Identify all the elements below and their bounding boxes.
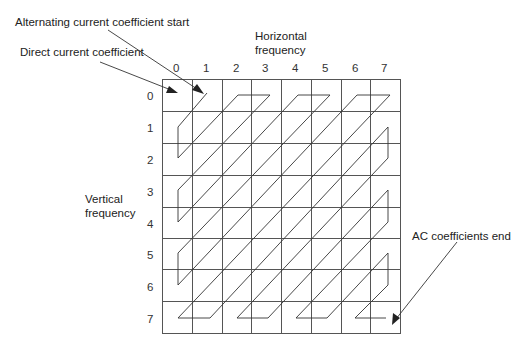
dc-label: Direct current coefficient: [20, 46, 145, 58]
row-label: 7: [147, 313, 153, 325]
row-label: 0: [147, 90, 153, 102]
row-labels: 0 1 2 3 4 5 6 7: [147, 90, 154, 325]
arrow-icon: [166, 86, 178, 93]
row-label: 3: [147, 186, 153, 198]
vertical-axis-label-line1: Vertical: [85, 193, 123, 205]
vertical-axis-label-line2: frequency: [85, 207, 136, 219]
horizontal-axis-label-line2: frequency: [255, 44, 306, 56]
column-label: 2: [233, 62, 239, 74]
ac-end-label: AC coefficients end: [412, 230, 511, 242]
zigzag-scan-diagram: Alternating current coefficient start Di…: [0, 0, 517, 349]
row-label: 5: [147, 249, 153, 261]
column-label: 0: [173, 62, 179, 74]
column-label: 1: [203, 62, 209, 74]
row-label: 6: [147, 281, 153, 293]
ac-end-leader: [392, 242, 457, 325]
dc-leader: [100, 62, 178, 93]
row-label: 2: [147, 154, 153, 166]
column-label: 5: [322, 62, 328, 74]
arrow-icon: [192, 84, 204, 94]
row-label: 4: [147, 218, 154, 230]
column-label: 6: [352, 62, 358, 74]
coefficient-grid: [162, 79, 400, 333]
ac-start-label: Alternating current coefficient start: [15, 16, 190, 28]
column-label: 4: [292, 62, 299, 74]
zigzag-scan-path: [178, 93, 390, 318]
column-label: 7: [381, 62, 387, 74]
column-label: 3: [262, 62, 268, 74]
column-labels: 0 1 2 3 4 5 6 7: [173, 62, 387, 74]
horizontal-axis-label-line1: Horizontal: [255, 30, 307, 42]
row-label: 1: [147, 122, 153, 134]
